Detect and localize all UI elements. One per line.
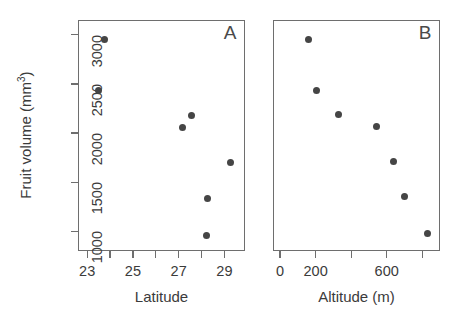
panel-a-x-axis-title: Latitude	[78, 288, 245, 305]
data-point	[203, 232, 210, 239]
x-axis-tick	[351, 251, 352, 258]
panel-b-x-axis-title: Altitude (m)	[273, 288, 440, 305]
y-axis-tick	[71, 132, 78, 133]
x-axis-tick	[132, 251, 133, 258]
y-axis-title-text: Fruit volume (mm	[17, 82, 34, 199]
y-axis-tick-label: 1000	[89, 231, 105, 263]
y-axis-tick-label: 1500	[89, 182, 105, 214]
data-point	[424, 230, 431, 237]
x-axis-tick	[315, 251, 316, 258]
figure-container: Fruit volume (mm3) A 1000150020002500300…	[0, 0, 469, 321]
x-axis-tick	[155, 251, 156, 258]
x-axis-tick	[87, 251, 88, 258]
y-axis-title-superscript: 3	[16, 76, 27, 82]
panel-a-tag: A	[224, 22, 237, 44]
y-axis-tick-label: 2000	[89, 133, 105, 165]
x-axis-tick	[109, 251, 110, 258]
x-axis-tick-label: 200	[304, 263, 328, 279]
data-point	[179, 124, 186, 131]
panel-b: B 0200600	[273, 20, 440, 251]
x-axis-tick-label: 27	[171, 263, 187, 279]
x-axis-tick-label: 600	[375, 263, 399, 279]
y-axis-tick	[71, 231, 78, 232]
y-axis-tick	[71, 83, 78, 84]
panel-a: A 10001500200025003000 23252729	[78, 20, 245, 251]
x-axis-tick	[279, 251, 280, 258]
data-point	[101, 36, 108, 43]
data-point	[227, 159, 234, 166]
panel-b-tag: B	[419, 22, 432, 44]
x-axis-tick-label: 29	[216, 263, 232, 279]
x-axis-tick	[201, 251, 202, 258]
x-axis-tick	[178, 251, 179, 258]
x-axis-tick	[422, 251, 423, 258]
panel-b-plot-frame	[273, 20, 440, 251]
x-axis-tick-label: 25	[125, 263, 141, 279]
data-point	[188, 112, 195, 119]
x-axis-tick-label: 0	[276, 263, 284, 279]
x-axis-tick-label: 23	[79, 263, 95, 279]
y-axis-title-paren: )	[17, 71, 34, 76]
x-axis-tick	[224, 251, 225, 258]
y-axis-tick	[71, 182, 78, 183]
y-axis-tick	[71, 34, 78, 35]
y-axis-title: Fruit volume (mm3)	[16, 71, 34, 198]
x-axis-tick	[386, 251, 387, 258]
